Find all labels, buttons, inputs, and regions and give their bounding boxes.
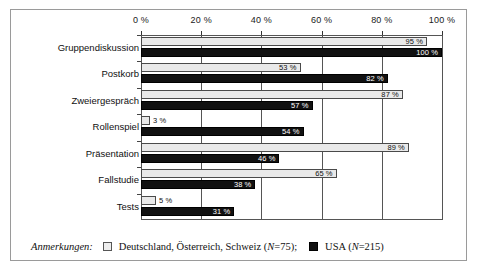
bar-value-label: 3 % <box>153 116 166 125</box>
x-tick-label: 60 % <box>311 15 332 25</box>
legend-swatch-dach <box>103 242 112 251</box>
plot-area: 0 %20 %40 %60 %80 %100 % Gruppendiskussi… <box>141 35 442 220</box>
bar-dach: 65 % <box>141 169 337 178</box>
category-label: Präsentation <box>0 141 139 167</box>
category-label: Tests <box>0 194 139 220</box>
x-tick-label: 20 % <box>191 15 212 25</box>
category-label: Fallstudie <box>0 167 139 193</box>
bar-row: Fallstudie65 %38 % <box>141 167 442 193</box>
x-tick-100 <box>442 31 443 35</box>
bar-dach: 3 % <box>141 116 150 125</box>
bar-dach: 5 % <box>141 196 156 205</box>
bar-value-label: 54 % <box>282 127 300 136</box>
x-tick-label: 80 % <box>371 15 392 25</box>
bar-value-label: 53 % <box>279 63 297 72</box>
chart-legend: Anmerkungen: Deutschland, Österreich, Sc… <box>11 232 466 260</box>
x-tick-label: 100 % <box>429 15 456 25</box>
bar-value-label: 100 % <box>416 48 438 57</box>
legend-title: Anmerkungen: <box>31 241 93 252</box>
bar-row: Tests5 %31 % <box>141 194 442 220</box>
legend-inner: Anmerkungen: Deutschland, Österreich, Sc… <box>31 232 396 260</box>
bar-dach: 87 % <box>141 90 403 99</box>
bar-value-label: 89 % <box>387 143 405 152</box>
bar-usa: 82 % <box>141 74 388 83</box>
bar-row: Postkorb53 %82 % <box>141 61 442 87</box>
bar-dach: 53 % <box>141 63 301 72</box>
bar-row: Rollenspiel3 %54 % <box>141 114 442 140</box>
bar-dach: 89 % <box>141 143 409 152</box>
bar-row: Zweiergespräch87 %57 % <box>141 88 442 114</box>
bar-value-label: 95 % <box>405 37 423 46</box>
bar-usa: 38 % <box>141 180 255 189</box>
category-label: Zweiergespräch <box>0 88 139 114</box>
category-label: Postkorb <box>0 61 139 87</box>
bar-usa: 100 % <box>141 48 442 57</box>
bar-value-label: 65 % <box>315 169 333 178</box>
bar-value-label: 46 % <box>258 154 276 163</box>
chart-figure: 0 %20 %40 %60 %80 %100 % Gruppendiskussi… <box>10 9 467 261</box>
bar-usa: 31 % <box>141 207 234 216</box>
legend-swatch-usa <box>309 242 318 251</box>
bar-row: Gruppendiskussion95 %100 % <box>141 35 442 61</box>
bar-value-label: 5 % <box>159 196 172 205</box>
x-tick-label: 0 % <box>133 15 149 25</box>
x-tick-label: 40 % <box>251 15 272 25</box>
bar-usa: 57 % <box>141 101 313 110</box>
bar-value-label: 38 % <box>234 180 252 189</box>
gridline-100 <box>442 35 443 220</box>
bar-usa: 54 % <box>141 127 304 136</box>
category-label: Rollenspiel <box>0 114 139 140</box>
bar-value-label: 82 % <box>366 74 384 83</box>
bar-usa: 46 % <box>141 154 279 163</box>
bar-value-label: 57 % <box>291 101 309 110</box>
category-label: Gruppendiskussion <box>0 35 139 61</box>
bar-value-label: 87 % <box>381 90 399 99</box>
bar-dach: 95 % <box>141 37 427 46</box>
bar-row: Präsentation89 %46 % <box>141 141 442 167</box>
bar-value-label: 31 % <box>213 207 231 216</box>
legend-label-dach: Deutschland, Österreich, Schweiz (N=75); <box>119 241 297 252</box>
legend-label-usa: USA (N=215) <box>325 241 384 252</box>
